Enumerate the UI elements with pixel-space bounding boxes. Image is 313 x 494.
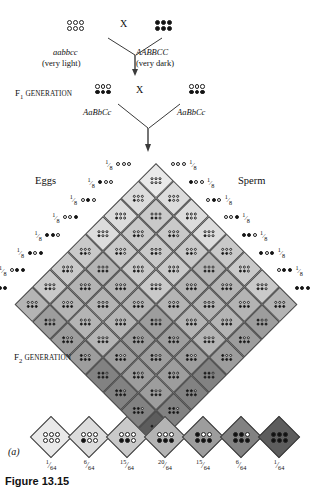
- allele-dot: [101, 371, 105, 375]
- allele-dot: [70, 269, 74, 273]
- phenotype-class-fraction: 15⁄64: [184, 458, 222, 471]
- phenotype-class-fraction: 1⁄64: [260, 458, 298, 471]
- allele-dot: [176, 199, 180, 203]
- allele-dot: [79, 318, 83, 322]
- allele-dot: [150, 358, 154, 362]
- allele-row-top: [238, 301, 250, 305]
- allele-dot: [83, 283, 87, 287]
- allele-dot: [119, 252, 123, 256]
- allele-dot: [97, 340, 101, 344]
- phenotype-class-diamond: [264, 422, 294, 452]
- sperm-gamete-alleles: [277, 268, 292, 272]
- allele-dot: [48, 283, 52, 287]
- allele-row-top: [26, 301, 38, 305]
- allele-row-bottom: [185, 252, 197, 256]
- allele-dot: [211, 265, 215, 269]
- phenotype-class-diamond: [188, 422, 218, 452]
- allele-dot: [119, 358, 123, 362]
- allele-dot: [211, 230, 215, 234]
- allele-dot: [83, 354, 87, 358]
- egg-gamete: 1⁄8: [0, 282, 7, 295]
- figure-caption: Figure 13.15: [5, 475, 69, 487]
- allele-row-top: [62, 301, 74, 305]
- egg-gamete-alleles: [10, 268, 25, 272]
- gamete-allele-dot: [51, 233, 55, 237]
- allele-dot: [207, 269, 211, 273]
- gamete-allele-dot: [127, 162, 131, 166]
- allele-dot: [185, 252, 189, 256]
- gamete-allele-dot: [277, 268, 281, 272]
- allele-row-bottom: [150, 322, 162, 326]
- gamete-allele-dot: [270, 251, 274, 255]
- allele-dot: [260, 322, 264, 326]
- allele-dot: [79, 358, 83, 362]
- allele-dot: [207, 375, 211, 379]
- allele-dot: [66, 301, 70, 305]
- allele-row-top: [79, 354, 91, 358]
- allele-dot: [137, 371, 141, 375]
- allele-row-top: [150, 177, 162, 181]
- allele-dot: [274, 305, 278, 309]
- allele-row-bottom: [97, 305, 109, 309]
- allele-dot: [264, 322, 268, 326]
- egg-gamete: 1⁄8: [0, 264, 25, 277]
- allele-dot: [137, 407, 141, 411]
- allele-dot: [194, 389, 198, 393]
- allele-dot: [190, 212, 194, 216]
- allele-dot: [211, 375, 215, 379]
- allele-dot: [137, 230, 141, 234]
- allele-dot: [154, 177, 158, 181]
- allele-dot: [168, 269, 172, 273]
- allele-dot: [238, 265, 242, 269]
- allele-dot: [141, 375, 145, 379]
- allele-dot: [229, 318, 233, 322]
- allele-dot: [260, 287, 264, 291]
- allele-dot: [101, 301, 105, 305]
- allele-dot: [282, 301, 286, 305]
- allele-dot: [207, 305, 211, 309]
- allele-dot: [278, 301, 282, 305]
- allele-dot: [243, 301, 247, 305]
- phenotype-class-body: [68, 416, 110, 458]
- allele-dot: [79, 252, 83, 256]
- allele-dot: [172, 269, 176, 273]
- allele-dot: [185, 354, 189, 358]
- allele-dot: [264, 283, 268, 287]
- allele-dot: [115, 393, 119, 397]
- allele-dot: [115, 287, 119, 291]
- allele-row-top: [150, 354, 162, 358]
- allele-dot: [256, 287, 260, 291]
- allele-dot: [150, 177, 154, 181]
- f2-generation-label: F2 GENERATION: [14, 352, 71, 364]
- allele-dot: [207, 234, 211, 238]
- allele-dot: [88, 318, 92, 322]
- allele-row-top: [150, 318, 162, 322]
- egg-gamete: 1⁄8: [87, 176, 113, 189]
- gamete-allele-dot: [200, 180, 204, 184]
- allele-dot: [132, 234, 136, 238]
- gamete-allele-dot: [104, 180, 108, 184]
- allele-dot: [229, 252, 233, 256]
- allele-dot: [176, 375, 180, 379]
- allele-row-bottom: [221, 287, 233, 291]
- gamete-allele-dot: [98, 180, 102, 184]
- allele-dot: [137, 305, 141, 309]
- allele-row-bottom: [185, 322, 197, 326]
- allele-dot: [211, 234, 215, 238]
- allele-dot: [79, 354, 83, 358]
- allele-dot: [154, 358, 158, 362]
- allele-row-bottom: [79, 287, 91, 291]
- allele-dot: [190, 322, 194, 326]
- allele-row-bottom: [132, 234, 144, 238]
- allele-dot: [48, 287, 52, 291]
- allele-dot: [119, 283, 123, 287]
- allele-row-top: [203, 230, 215, 234]
- allele-dot: [44, 318, 48, 322]
- allele-dot: [185, 287, 189, 291]
- allele-row-top: [238, 336, 250, 340]
- allele-row-bottom: [97, 375, 109, 379]
- allele-dot: [194, 354, 198, 358]
- allele-dot: [158, 287, 162, 291]
- allele-row-top: [132, 230, 144, 234]
- egg-gamete: 1⁄8: [70, 193, 96, 206]
